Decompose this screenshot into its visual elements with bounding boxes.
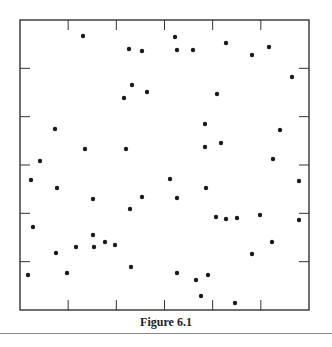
data-point (113, 243, 117, 247)
data-point (258, 213, 262, 217)
data-point (297, 218, 301, 222)
data-point (290, 75, 294, 79)
data-point (83, 147, 87, 151)
bottom-rule (0, 333, 332, 334)
data-point (191, 48, 195, 52)
data-point (270, 240, 274, 244)
data-points (26, 34, 301, 305)
data-point (235, 216, 239, 220)
data-point (103, 240, 107, 244)
data-point (233, 301, 237, 305)
data-point (297, 179, 301, 183)
scatter-plot (0, 0, 332, 347)
data-point (168, 177, 172, 181)
data-point (91, 233, 95, 237)
data-point (54, 251, 58, 255)
data-point (140, 49, 144, 53)
data-point (199, 294, 203, 298)
figure-caption: Figure 6.1 (0, 315, 332, 330)
data-point (53, 127, 57, 131)
data-point (140, 195, 144, 199)
data-point (129, 265, 133, 269)
data-point (127, 47, 131, 51)
plot-border (20, 20, 309, 310)
data-point (278, 128, 282, 132)
data-point (214, 215, 218, 219)
data-point (204, 186, 208, 190)
data-point (91, 197, 95, 201)
data-point (65, 271, 69, 275)
data-point (92, 245, 96, 249)
data-point (122, 96, 126, 100)
data-point (173, 35, 177, 39)
data-point (219, 141, 223, 145)
data-point (26, 273, 30, 277)
data-point (250, 252, 254, 256)
data-point (194, 278, 198, 282)
data-point (206, 273, 210, 277)
data-point (29, 178, 33, 182)
plot-frame (20, 20, 309, 310)
data-point (31, 225, 35, 229)
axis-ticks (20, 20, 309, 310)
data-point (38, 159, 42, 163)
data-point (81, 34, 85, 38)
data-point (271, 157, 275, 161)
data-point (124, 147, 128, 151)
data-point (55, 186, 59, 190)
data-point (215, 92, 219, 96)
data-point (145, 90, 149, 94)
data-point (203, 122, 207, 126)
data-point (224, 41, 228, 45)
data-point (224, 217, 228, 221)
data-point (175, 196, 179, 200)
data-point (128, 207, 132, 211)
data-point (74, 245, 78, 249)
data-point (175, 271, 179, 275)
data-point (267, 45, 271, 49)
data-point (130, 83, 134, 87)
data-point (203, 145, 207, 149)
data-point (250, 53, 254, 57)
data-point (175, 48, 179, 52)
